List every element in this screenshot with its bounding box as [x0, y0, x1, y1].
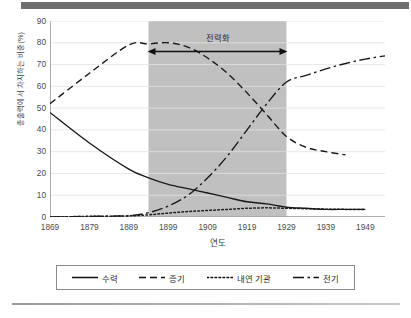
x-tick-label: 1909	[198, 223, 216, 231]
chart-legend: 수력증기내연 기관전기	[56, 265, 355, 290]
x-tick-label: 1899	[159, 223, 177, 231]
x-axis-title: 연도	[50, 236, 385, 248]
legend-item-4[interactable]: 전기	[293, 272, 339, 284]
legend-label: 수력	[102, 272, 118, 284]
plot-area: 전력화	[50, 21, 385, 217]
chart-figure: 총출력에서 차지하는 비중(%) 0102030405060708090 전력화…	[0, 12, 411, 248]
legend-label: 증기	[169, 272, 185, 284]
y-tick-label: 20	[24, 169, 46, 177]
y-tick-label: 60	[24, 82, 46, 90]
legend-label: 내연 기관	[237, 272, 271, 284]
x-tick-label: 1939	[317, 223, 335, 231]
legend-key-dashdot-icon	[293, 273, 319, 282]
x-axis-tick-labels: 186918791889189919091919192919391949	[50, 221, 385, 235]
legend-item-1[interactable]: 수력	[72, 272, 118, 284]
shaded-band	[149, 21, 287, 217]
legend-item-2[interactable]: 증기	[139, 272, 185, 284]
y-tick-label: 0	[24, 213, 46, 221]
top-banner-bar	[21, 2, 409, 9]
y-tick-label: 70	[24, 60, 46, 68]
x-tick-label: 1889	[120, 223, 138, 231]
plot-svg	[50, 21, 385, 217]
x-tick-label: 1929	[277, 223, 295, 231]
y-tick-label: 10	[24, 191, 46, 199]
y-tick-label: 50	[24, 104, 46, 112]
x-tick-label: 1879	[80, 223, 98, 231]
y-tick-label: 40	[24, 125, 46, 133]
legend-key-dashed-icon	[139, 273, 165, 282]
shaded-band-label: 전력화	[206, 31, 230, 43]
x-tick-label: 1919	[238, 223, 256, 231]
x-tick-label: 1949	[356, 223, 374, 231]
legend-item-3[interactable]: 내연 기관	[207, 272, 271, 284]
legend-label: 전기	[323, 272, 339, 284]
y-tick-label: 90	[24, 17, 46, 25]
y-tick-label: 30	[24, 147, 46, 155]
legend-key-dotted-icon	[207, 273, 233, 282]
chart-page: 총출력에서 차지하는 비중(%) 0102030405060708090 전력화…	[0, 0, 411, 318]
legend-key-solid-icon	[72, 273, 98, 282]
y-axis-tick-labels: 0102030405060708090	[20, 21, 46, 217]
y-tick-label: 80	[24, 38, 46, 46]
bottom-divider	[12, 303, 400, 305]
x-tick-label: 1869	[41, 223, 59, 231]
